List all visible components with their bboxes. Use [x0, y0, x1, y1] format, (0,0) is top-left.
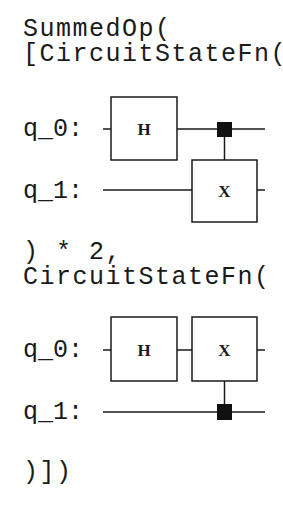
x-gate: X [192, 317, 257, 381]
code-line-close: )]) [23, 460, 73, 485]
svg-text:X: X [218, 341, 231, 360]
control-dot-icon [217, 404, 232, 420]
h-gate: H [111, 317, 177, 381]
circuit-diagram-2: q_0: q_1: H X [0, 0, 283, 520]
qubit-label-q0: q_0: [23, 336, 83, 365]
qubit-label-q1: q_1: [23, 398, 83, 427]
svg-text:H: H [137, 341, 150, 360]
